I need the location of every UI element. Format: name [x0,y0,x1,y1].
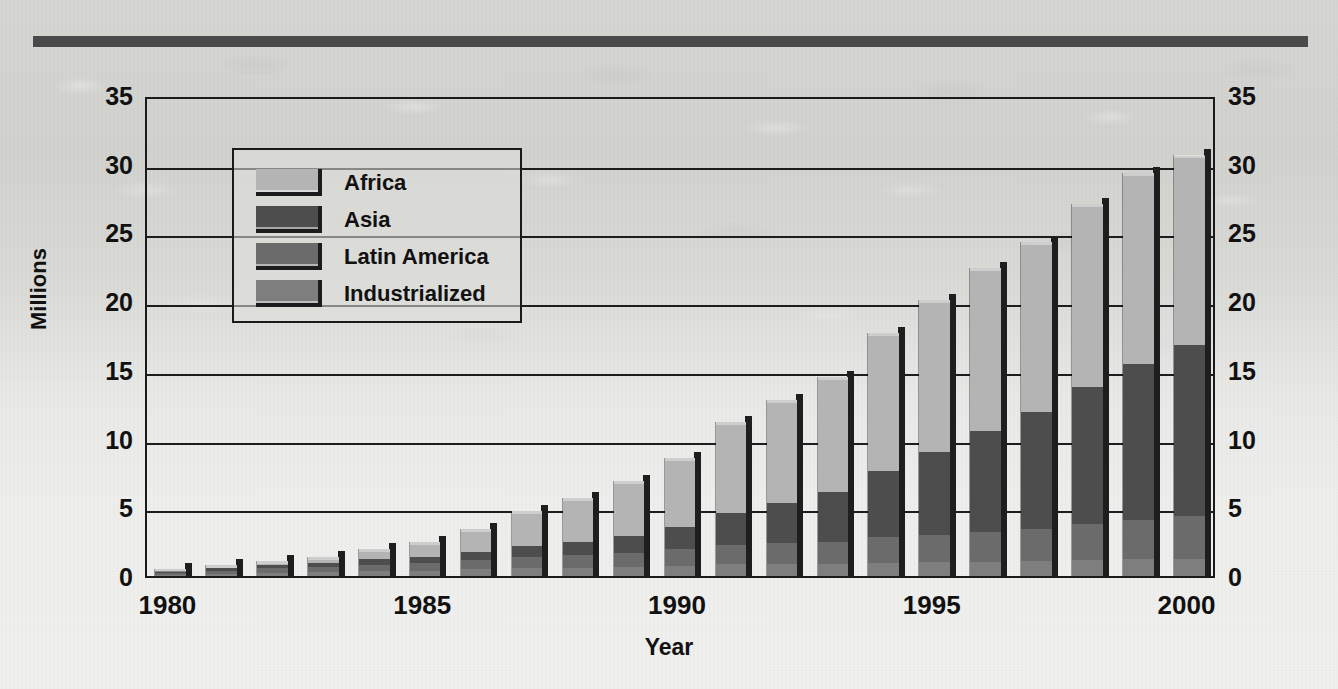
y-tick-left-25: 25 [73,221,133,246]
bar-side-face-1998 [1102,198,1109,576]
segment-industrialized-1982 [257,573,288,576]
bar-side-face-1990 [694,452,701,576]
bar-top-face-1986 [461,529,492,532]
segment-latin-america-1984 [359,565,390,572]
bar-1980 [154,569,192,576]
bar-side-face-1985 [439,536,446,576]
legend-item-asia: Asia [256,201,520,238]
segment-asia-2000 [1174,345,1205,516]
bar-stack-1998 [1071,204,1103,576]
legend-label-latin-america: Latin America [344,244,489,270]
x-tick-1995: 1995 [877,592,987,618]
segment-industrialized-1986 [461,569,492,576]
legend-swatch-industrialized [256,280,322,307]
bar-top-face-1992 [767,400,798,403]
segment-africa-1995 [919,300,950,452]
bar-side-face-1984 [389,543,396,576]
bar-stack-1994 [867,333,899,576]
segment-africa-1994 [868,333,899,471]
bar-side-face-1988 [592,492,599,576]
segment-industrialized-1987 [512,568,543,576]
legend-label-africa: Africa [344,170,406,196]
segment-africa-1987 [512,511,543,546]
segment-latin-america-1999 [1123,520,1154,560]
y-tick-right-25: 25 [1228,221,1288,246]
segment-asia-1996 [970,431,1001,531]
bar-stack-1988 [562,498,594,576]
segment-latin-america-1985 [410,563,441,571]
bar-top-face-2000 [1174,155,1205,158]
bar-stack-1986 [460,529,492,576]
bar-top-face-1998 [1072,204,1103,207]
segment-africa-1993 [818,377,849,493]
segment-latin-america-1993 [818,542,849,564]
x-tick-1985: 1985 [367,592,477,618]
segment-asia-1987 [512,546,543,557]
segment-asia-1991 [716,513,747,545]
y-axis-title: Millions [26,248,52,330]
bar-stack-1990 [664,458,696,576]
y-tick-left-15: 15 [73,359,133,384]
segment-latin-america-1994 [868,537,899,562]
segment-industrialized-2000 [1174,559,1205,576]
bar-top-face-1993 [818,377,849,380]
bar-top-face-1983 [308,557,339,560]
segment-industrialized-1992 [767,564,798,576]
legend-swatch-asia [256,206,322,233]
bar-top-face-1997 [1021,242,1052,245]
segment-latin-america-1989 [614,553,645,567]
segment-asia-1993 [818,492,849,542]
y-tick-left-0: 0 [73,565,133,590]
y-tick-right-35: 35 [1228,84,1288,109]
bar-1996 [969,268,1007,576]
segment-latin-america-1986 [461,560,492,569]
bar-side-face-1992 [796,394,803,576]
segment-africa-1992 [767,400,798,503]
x-tick-1990: 1990 [622,592,732,618]
segment-latin-america-1990 [665,549,696,565]
bar-top-face-1988 [563,498,594,501]
legend-item-africa: Africa [256,164,520,201]
bar-side-face-1991 [745,416,752,576]
bar-side-face-1981 [236,559,243,576]
segment-africa-1990 [665,458,696,527]
bar-side-face-1982 [287,555,294,576]
bar-1988 [562,498,600,576]
segment-latin-america-1991 [716,545,747,565]
bar-stack-1981 [205,565,237,576]
segment-latin-america-2000 [1174,516,1205,559]
bar-1998 [1071,204,1109,576]
segment-africa-1996 [970,268,1001,431]
y-tick-left-35: 35 [73,84,133,109]
segment-industrialized-1994 [868,563,899,576]
legend-swatch-africa [256,169,322,196]
legend-label-asia: Asia [344,207,390,233]
bar-stack-1991 [715,422,747,576]
segment-industrialized-1995 [919,562,950,576]
bar-1999 [1122,173,1160,576]
bar-stack-1984 [358,549,390,576]
bar-top-face-1981 [206,565,237,568]
bar-stack-1996 [969,268,1001,576]
bar-stack-1997 [1020,242,1052,576]
y-tick-right-15: 15 [1228,359,1288,384]
segment-latin-america-1995 [919,535,950,563]
segment-latin-america-1988 [563,555,594,568]
bar-top-face-1996 [970,268,1001,271]
y-tick-right-20: 20 [1228,290,1288,315]
legend-item-latin-america: Latin America [256,238,520,275]
segment-asia-1992 [767,503,798,543]
bar-side-face-1989 [643,475,650,576]
segment-asia-1986 [461,552,492,560]
bar-1995 [918,300,956,576]
segment-africa-1997 [1021,242,1052,412]
segment-industrialized-1985 [410,571,441,576]
bar-1987 [511,511,549,576]
bar-stack-1987 [511,511,543,576]
top-rule [33,36,1308,47]
segment-asia-1989 [614,536,645,553]
bar-top-face-1982 [257,561,288,564]
x-tick-1980: 1980 [112,592,222,618]
y-tick-right-5: 5 [1228,496,1288,521]
bar-1991 [715,422,753,576]
